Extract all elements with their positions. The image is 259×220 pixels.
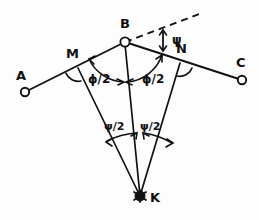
point-label-A: A (16, 68, 26, 83)
point-marker-B (120, 37, 129, 46)
point-label-K: K (150, 190, 161, 205)
point-label-M: M (66, 46, 79, 61)
segment-group (25, 13, 242, 196)
arrowhead-psi-half-left-outer (106, 138, 113, 146)
angle-label-phi-half-right: ϕ/2 (142, 72, 164, 86)
arc-at-M (66, 73, 81, 81)
point-marker-K (134, 190, 146, 202)
angle-measure-psi (160, 30, 167, 51)
angle-label-psi-half-right: ψ/2 (140, 120, 160, 133)
point-marker-A (21, 88, 29, 96)
segment-B-to-K (125, 44, 140, 196)
angle-label-phi-half-left: ϕ/2 (88, 72, 110, 86)
point-marker-group (21, 37, 246, 202)
point-marker-C (238, 76, 246, 84)
angle-label-psi: ψ (172, 33, 182, 47)
arrowhead-phi-half-left-outer (89, 56, 95, 64)
point-label-C: C (236, 55, 246, 70)
geometry-diagram-canvas: A B C M N K ψ ϕ/2 ϕ/2 ψ/2 ψ/2 (0, 0, 259, 220)
arc-at-N (177, 68, 192, 76)
angle-label-psi-half-left: ψ/2 (104, 120, 124, 133)
geometry-figure: A B C M N K ψ ϕ/2 ϕ/2 ψ/2 ψ/2 (0, 0, 259, 220)
point-label-B: B (120, 16, 130, 31)
